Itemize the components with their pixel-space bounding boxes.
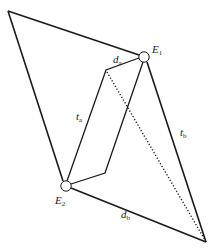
label-d-b: db xyxy=(121,209,130,222)
edge-E1-bottomright-tb xyxy=(147,62,206,242)
label-t-a: ta xyxy=(76,111,82,124)
label-d-a: da xyxy=(113,54,122,67)
label-E1: E1 xyxy=(152,44,162,57)
node-E2 xyxy=(61,181,71,191)
edge-topleft-E1 xyxy=(8,11,139,55)
edge-E2-bottomright-db xyxy=(71,188,206,242)
label-t-b: tb xyxy=(180,127,187,140)
edge-topleft-E2 xyxy=(8,11,63,181)
label-E2: E2 xyxy=(55,195,65,208)
diagram-canvas xyxy=(0,0,221,250)
node-E1 xyxy=(139,52,149,62)
